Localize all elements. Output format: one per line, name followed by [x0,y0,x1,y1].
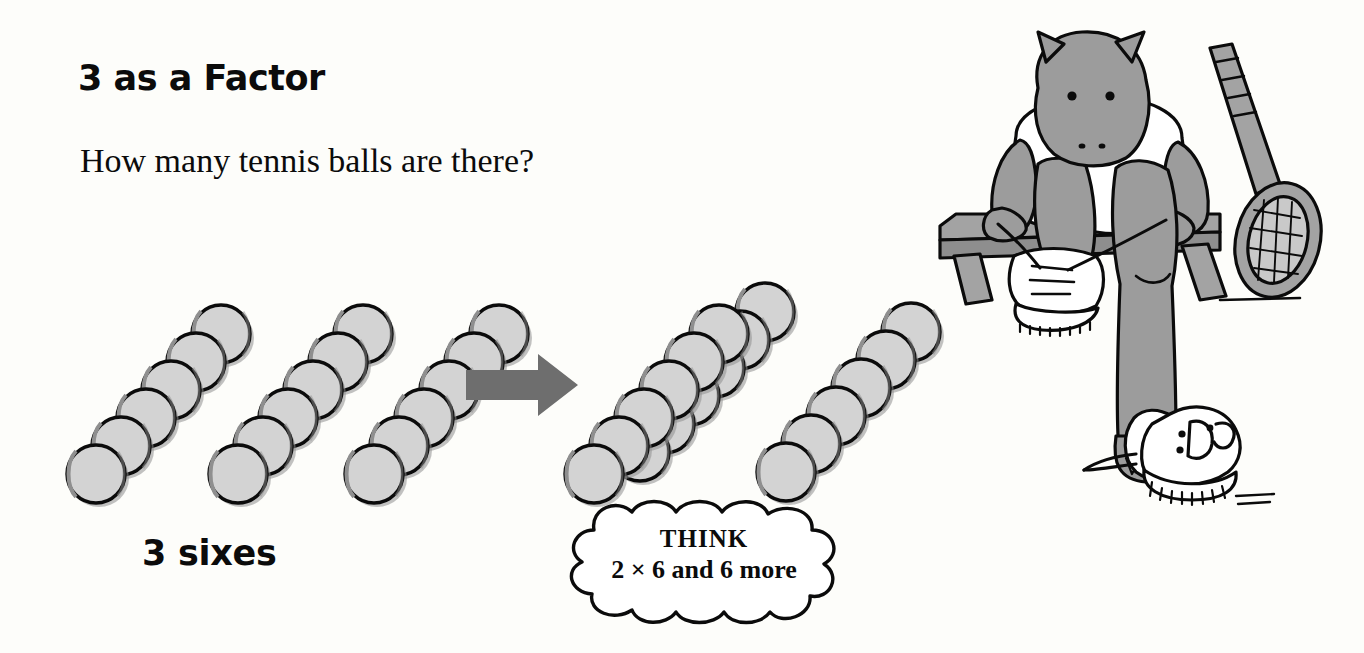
group-label: 3 sixes [142,533,276,573]
question-text: How many tennis balls are there? [80,140,610,182]
ball-group-three-sixes [62,258,522,508]
tennis-racket-icon [1210,44,1333,306]
tennis-ball-icon [340,440,408,508]
page-title: 3 as a Factor [78,58,325,98]
tennis-ball-icon [62,440,130,508]
untied-sneaker-icon [1078,378,1283,523]
thought-bubble [556,496,852,628]
worksheet-page: 3 as a Factor How many tennis balls are … [0,0,1364,653]
tennis-ball-icon [204,440,272,508]
